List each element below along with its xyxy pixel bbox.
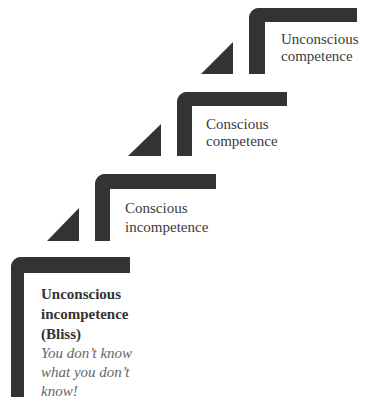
step-tread [249,8,357,22]
step-title-line: competence [206,133,278,150]
step-tread [11,257,130,273]
step-title-line: incompetence [125,218,208,237]
step-title-line: (Bliss) [41,324,128,344]
step-title-line: Conscious [206,116,278,133]
step-triangle-icon [47,208,79,241]
step-tread [95,174,216,189]
step-note-line: know! [41,382,132,401]
step-title-line: Unconscious [281,31,359,48]
step-title-line: competence [281,48,359,65]
step-triangle-icon [128,124,161,156]
step-label: Conscious competence [206,116,278,150]
step-tread [177,92,287,106]
step-note-line: what you don’t [41,363,132,382]
step-title-line: incompetence [41,304,128,324]
step-note: You don’t know what you don’t know! [41,344,132,401]
step-label: Unconscious competence [281,31,359,65]
step-title-line: Conscious [125,199,208,218]
step-riser [11,257,24,397]
step-label: Conscious incompetence [125,199,208,237]
step-note-line: You don’t know [41,344,132,363]
step-label: Unconscious incompetence (Bliss) [41,284,128,344]
step-triangle-icon [201,42,233,74]
step-title-line: Unconscious [41,284,128,304]
